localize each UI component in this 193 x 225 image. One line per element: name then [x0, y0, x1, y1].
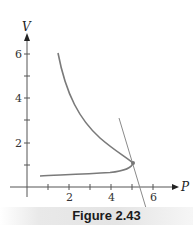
y-tick-label: 6	[15, 48, 22, 61]
y-tick-label: 2	[15, 137, 22, 150]
figure-caption: Figure 2.43	[0, 208, 193, 223]
x-tick-label: 4	[108, 191, 115, 204]
y-tick-label: 4	[15, 92, 22, 105]
tangency-point	[131, 161, 135, 165]
curve-upper-branch	[58, 53, 133, 163]
x-tick-label: 2	[66, 191, 73, 204]
x-axis-arrow-icon	[172, 184, 179, 190]
x-tick-label: 6	[150, 191, 157, 204]
y-axis-arrow-icon	[24, 33, 30, 41]
y-axis-label: V	[22, 20, 32, 34]
x-axis-label: P	[180, 180, 190, 194]
curve-lower-branch	[40, 163, 133, 176]
chart-plot: 2 4 6 2 4 6 P V	[0, 0, 193, 207]
